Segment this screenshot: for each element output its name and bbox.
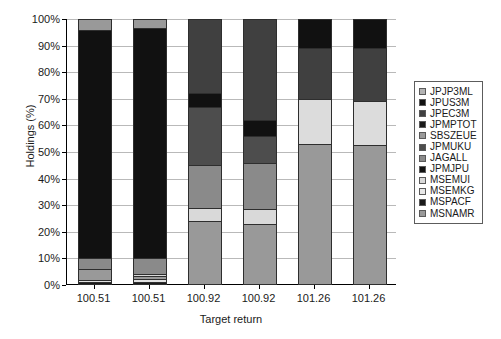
bar-segment[interactable] — [188, 221, 222, 285]
bar-segment[interactable] — [188, 165, 222, 208]
gridline — [67, 152, 396, 153]
bar-2[interactable] — [133, 19, 167, 284]
legend-label: JAGALL — [430, 153, 467, 163]
y-tick-label: 0% — [20, 280, 60, 291]
bar-segment[interactable] — [78, 269, 112, 280]
legend-swatch-icon — [419, 121, 426, 128]
legend-swatch-icon — [419, 166, 426, 173]
x-tick-mark — [94, 285, 95, 289]
bar-segment[interactable] — [188, 208, 222, 221]
gridline — [67, 99, 396, 100]
bar-segment[interactable] — [353, 48, 387, 101]
stacked-bar-chart: Holdings (%) 0%10%20%30%40%50%60%70%80%9… — [0, 0, 501, 339]
y-tick-label: 80% — [20, 67, 60, 78]
x-tick-mark — [149, 285, 150, 289]
gridline — [67, 205, 396, 206]
x-tick-mark — [259, 285, 260, 289]
legend-label: JPMJPU — [430, 164, 469, 174]
legend-swatch-icon — [419, 210, 426, 217]
y-tick-label: 100% — [20, 14, 60, 25]
bar-4[interactable] — [243, 19, 277, 284]
gridline — [67, 258, 396, 259]
legend-item-msemkg[interactable]: MSEMKG — [419, 186, 477, 197]
bar-segment[interactable] — [298, 48, 332, 99]
legend-swatch-icon — [419, 188, 426, 195]
bar-segment[interactable] — [133, 274, 167, 276]
y-tick-label: 10% — [20, 253, 60, 264]
legend-item-jpjp3ml[interactable]: JPJP3ML — [419, 86, 477, 97]
legend-label: SBSZEUE — [430, 131, 477, 141]
bar-segment[interactable] — [298, 99, 332, 144]
bar-segment[interactable] — [243, 209, 277, 224]
bar-segment[interactable] — [243, 163, 277, 210]
bar-segment[interactable] — [133, 19, 167, 28]
y-tick-label: 30% — [20, 200, 60, 211]
y-tick-label: 90% — [20, 41, 60, 52]
gridline — [67, 179, 396, 180]
legend-swatch-icon — [419, 88, 426, 95]
x-axis-title: Target return — [66, 313, 396, 325]
bar-segment[interactable] — [133, 28, 167, 258]
legend-item-msnamr[interactable]: MSNAMR — [419, 208, 477, 219]
x-tick-mark — [314, 285, 315, 289]
gridline — [67, 232, 396, 233]
x-tick-mark — [204, 285, 205, 289]
legend-label: JPMPTOT — [430, 120, 476, 130]
legend-item-jpmjpu[interactable]: JPMJPU — [419, 164, 477, 175]
legend-swatch-icon — [419, 155, 426, 162]
plot-area — [66, 19, 396, 285]
legend-item-sbszeue[interactable]: SBSZEUE — [419, 130, 477, 141]
bar-segment[interactable] — [298, 144, 332, 285]
legend-label: MSPACF — [430, 197, 471, 207]
y-tick-label: 50% — [20, 147, 60, 158]
legend-label: JPUS3M — [430, 98, 469, 108]
bar-segment[interactable] — [133, 258, 167, 273]
bar-segment[interactable] — [78, 19, 112, 30]
legend-item-jpec3m[interactable]: JPEC3M — [419, 108, 477, 119]
x-tick-mark — [369, 285, 370, 289]
bar-segment[interactable] — [243, 136, 277, 163]
legend-item-jpmuku[interactable]: JPMUKU — [419, 141, 477, 152]
bar-segment[interactable] — [353, 145, 387, 285]
bar-segment[interactable] — [133, 276, 167, 279]
bar-segment[interactable] — [78, 30, 112, 259]
y-tick-mark — [62, 285, 66, 286]
bar-segment[interactable] — [78, 258, 112, 269]
legend-swatch-icon — [419, 110, 426, 117]
bar-segment[interactable] — [188, 19, 222, 93]
bar-5[interactable] — [298, 19, 332, 284]
legend-label: MSEMKG — [430, 186, 474, 196]
bar-segment[interactable] — [188, 107, 222, 166]
gridline — [67, 19, 396, 20]
legend-swatch-icon — [419, 99, 426, 106]
legend-label: MSNAMR — [430, 209, 474, 219]
bar-segment[interactable] — [133, 282, 167, 285]
gridline — [67, 46, 396, 47]
legend-swatch-icon — [419, 177, 426, 184]
legend-label: JPMUKU — [430, 142, 471, 152]
legend-item-jpus3m[interactable]: JPUS3M — [419, 97, 477, 108]
legend-label: MSEMUI — [430, 175, 470, 185]
bar-segment[interactable] — [188, 93, 222, 106]
bar-segment[interactable] — [78, 282, 112, 285]
legend-item-msemui[interactable]: MSEMUI — [419, 175, 477, 186]
legend-item-jagall[interactable]: JAGALL — [419, 153, 477, 164]
y-tick-label: 20% — [20, 227, 60, 238]
gridline — [67, 125, 396, 126]
legend-item-jpmptot[interactable]: JPMPTOT — [419, 119, 477, 130]
bar-segment[interactable] — [353, 19, 387, 48]
bar-segment[interactable] — [243, 19, 277, 120]
legend-item-mspacf[interactable]: MSPACF — [419, 197, 477, 208]
bar-1[interactable] — [78, 19, 112, 284]
bar-segment[interactable] — [353, 101, 387, 145]
bar-6[interactable] — [353, 19, 387, 284]
y-tick-label: 40% — [20, 174, 60, 185]
bar-segment[interactable] — [298, 19, 332, 48]
bar-segment[interactable] — [133, 279, 167, 282]
bar-segment[interactable] — [78, 280, 112, 283]
bar-3[interactable] — [188, 19, 222, 284]
bar-segment[interactable] — [243, 120, 277, 136]
legend-label: JPJP3ML — [430, 87, 473, 97]
bar-segment[interactable] — [243, 224, 277, 285]
chart-legend: JPJP3MLJPUS3MJPEC3MJPMPTOTSBSZEUEJPMUKUJ… — [414, 81, 483, 224]
